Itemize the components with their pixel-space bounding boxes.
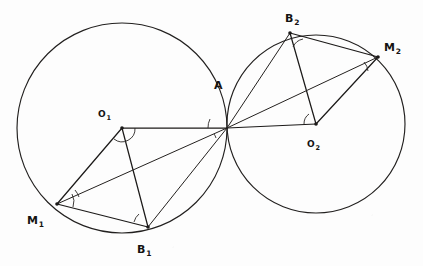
segment-A-M1 [57,128,227,204]
point-label-M1-sub: 1 [39,220,44,229]
point-label-M1: M1 [27,211,44,229]
point-label-B1: B1 [137,240,151,258]
segment-A-B2 [227,33,290,128]
segments-right-group [227,33,378,128]
segment-O2-B2 [290,33,316,124]
point-label-B1-base: B [137,243,146,256]
point-label-A-base: A [214,79,223,92]
point-label-M2-sub: 2 [396,47,401,56]
point-label-M2-base: M [384,41,395,54]
point-label-O1: O1 [98,104,111,121]
vertex-dot-M1 [55,202,59,206]
vertex-dots-group [55,31,380,229]
point-label-M2: M2 [384,38,401,56]
angle-at-B2 [293,39,303,47]
geometry-figure: A O1 M1 B1 O2 B2 M2 [0,0,423,266]
vertex-dot-B2 [288,31,292,35]
point-label-O1-sub: 1 [106,114,111,122]
angle-at-B1 [134,214,139,222]
angle-at-A-left [208,119,210,128]
segments-left-group [57,128,227,227]
point-label-O2: O2 [307,134,320,151]
point-label-O2-sub: 2 [315,144,320,152]
point-label-A: A [214,76,223,94]
segment-O2-M2 [316,57,378,124]
segment-O1-B1 [122,128,148,227]
point-label-M1-base: M [27,214,38,227]
point-label-O1-base: O [98,109,106,119]
segment-A-O2 [227,124,316,128]
point-label-O2-base: O [307,139,315,149]
vertex-dot-O2 [314,122,318,126]
geometry-canvas [0,0,423,266]
angle-at-A-right [214,134,216,138]
angle-marks-group [72,39,368,222]
segment-M1-B1 [57,204,148,227]
point-label-B2-sub: 2 [294,18,299,27]
vertex-dot-O1 [120,126,124,130]
vertex-dot-B1 [146,225,150,229]
angle-at-O2 [304,114,309,124]
segment-O1-M1 [57,128,122,204]
point-label-B1-sub: 1 [146,249,151,258]
segment-A-M2 [227,57,378,128]
point-label-B2: B2 [285,9,299,27]
vertex-dot-M2 [376,55,380,59]
point-label-B2-base: B [285,12,294,25]
angle-at-M1-lower [72,194,74,207]
